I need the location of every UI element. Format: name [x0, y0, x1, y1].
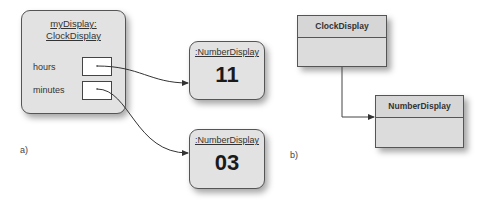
connectors: [0, 0, 479, 209]
hours-reference-arrow: [97, 66, 188, 83]
minutes-reference-dot: [96, 88, 98, 90]
association-arrow: [342, 67, 374, 117]
hours-reference-dot: [96, 65, 98, 67]
minutes-reference-arrow: [97, 89, 188, 153]
